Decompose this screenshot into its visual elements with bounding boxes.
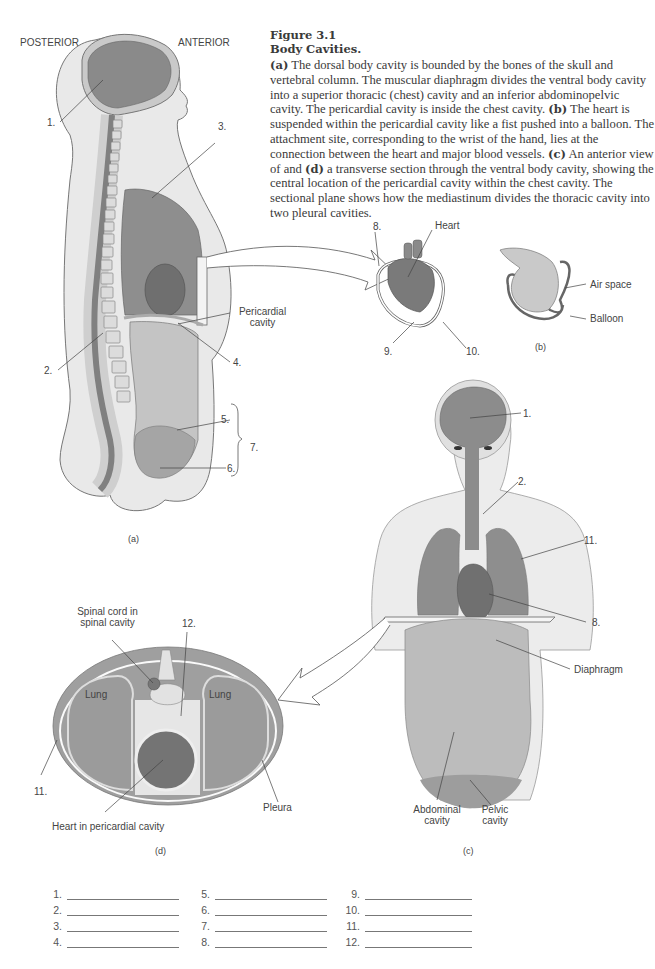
caption-ref-c: (c) [548, 147, 566, 161]
label-6-a: 6. [227, 463, 235, 474]
answer-number: 8. [188, 936, 210, 948]
answer-row: 9. [338, 886, 472, 900]
abdominal-cavity-text: cavity [424, 815, 450, 826]
caption-body: (a) The dorsal body cavity is bounded by… [270, 58, 655, 221]
label-1-c: 1. [523, 408, 531, 419]
answer-blanks: 1. 2. 3. 4. 5. 6. 7. 8. 9. 10. 11. 12. [0, 886, 655, 956]
answer-row: 4. [40, 934, 179, 948]
spinal-cavity-text: spinal cavity [80, 617, 134, 628]
caption-ref-a: (a) [270, 58, 288, 72]
label-12-d: 12. [182, 618, 196, 629]
answer-row: 8. [188, 934, 327, 948]
panel-label-d: (d) [155, 846, 166, 857]
figure-caption: Figure 3.1 Body Cavities. (a) The dorsal… [270, 28, 655, 221]
answer-row: 6. [188, 902, 327, 916]
label-3-a: 3. [218, 121, 226, 132]
pelvic-text: Pelvic [482, 804, 509, 815]
caption-ref-d: (d) [305, 162, 324, 176]
label-1-a: 1. [47, 117, 55, 128]
abdominal-text: Abdominal [413, 804, 460, 815]
answer-blank-11[interactable] [365, 921, 472, 932]
label-11-c: 11. [584, 535, 597, 546]
answer-row: 12. [338, 934, 472, 948]
answer-row: 2. [40, 902, 179, 916]
label-11-d: 11. [34, 786, 47, 797]
label-8-c: 8. [592, 617, 600, 628]
answer-blank-8[interactable] [215, 937, 327, 948]
spinal-cord-label: Spinal cord inspinal cavity [75, 606, 140, 628]
answer-row: 5. [188, 886, 327, 900]
abdominal-cavity-label: Abdominalcavity [408, 804, 466, 826]
answer-blank-10[interactable] [365, 905, 472, 916]
answer-blank-9[interactable] [365, 889, 472, 900]
answer-number: 9. [338, 888, 360, 900]
answer-number: 7. [188, 920, 210, 932]
pleura-label: Pleura [263, 802, 292, 813]
answer-number: 5. [188, 888, 210, 900]
panel-label-c: (c) [463, 846, 474, 857]
figure-number: Figure 3.1 [270, 28, 655, 42]
answer-row: 11. [338, 918, 472, 932]
heart-label: Heart [435, 220, 459, 231]
answer-blank-12[interactable] [365, 937, 472, 948]
fist-balloon-illustration [500, 248, 586, 319]
label-10-heart: 10. [466, 346, 480, 357]
pelvic-cavity-text: cavity [482, 815, 508, 826]
answer-row: 1. [40, 886, 179, 900]
figure-title: Body Cavities. [270, 42, 655, 56]
answer-row: 7. [188, 918, 327, 932]
answer-blank-7[interactable] [215, 921, 327, 932]
answer-blank-5[interactable] [215, 889, 327, 900]
panel-label-a: (a) [128, 534, 139, 545]
lung-left-label: Lung [85, 689, 107, 700]
answer-blank-2[interactable] [67, 905, 179, 916]
caption-text-d: a transverse section through the ventral… [270, 162, 654, 220]
anterior-label: ANTERIOR [178, 37, 230, 48]
answer-number: 1. [40, 888, 62, 900]
lung-right-label: Lung [209, 689, 231, 700]
cavity-text: cavity [250, 317, 276, 328]
answer-number: 2. [40, 904, 62, 916]
heart-pericardial-label: Heart in pericardial cavity [52, 821, 164, 832]
posterior-label: POSTERIOR [20, 37, 79, 48]
answer-number: 6. [188, 904, 210, 916]
label-2-c: 2. [518, 476, 526, 487]
diaphragm-label: Diaphragm [574, 664, 623, 675]
label-7-a: 7. [250, 442, 258, 453]
pericardial-cavity-label-a: Pericardialcavity [230, 306, 295, 328]
label-9-heart: 9. [384, 346, 392, 357]
anterior-body-illustration [278, 380, 593, 808]
balloon-label: Balloon [590, 313, 623, 324]
answer-blank-1[interactable] [67, 889, 179, 900]
answer-blank-6[interactable] [215, 905, 327, 916]
label-8-heart: 8. [373, 221, 381, 232]
caption-ref-b: (b) [548, 102, 567, 116]
heart-in-pericardium-illustration [375, 230, 466, 348]
transverse-section-illustration [41, 632, 283, 812]
answer-number: 4. [40, 936, 62, 948]
answer-row: 10. [338, 902, 472, 916]
answer-blank-3[interactable] [67, 921, 179, 932]
answer-number: 3. [40, 920, 62, 932]
answer-row: 3. [40, 918, 179, 932]
answer-number: 11. [338, 920, 360, 932]
pelvic-cavity-label: Pelviccavity [472, 804, 518, 826]
air-space-label: Air space [590, 279, 632, 290]
pericardial-text: Pericardial [239, 306, 286, 317]
label-5-a: 5. [221, 414, 229, 425]
label-4-a: 4. [233, 357, 241, 368]
answer-number: 12. [338, 936, 360, 948]
answer-number: 10. [338, 904, 360, 916]
spinal-cord-text: Spinal cord in [77, 606, 138, 617]
panel-label-b: (b) [535, 342, 546, 353]
answer-blank-4[interactable] [67, 937, 179, 948]
label-2-a: 2. [44, 365, 52, 376]
